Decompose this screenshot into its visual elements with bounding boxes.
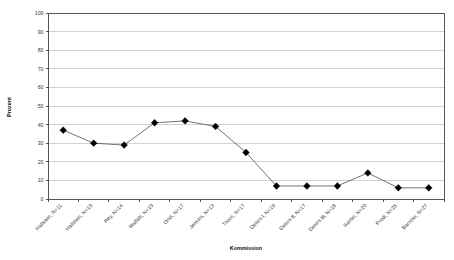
chart-container: 0102030405060708090100 Hallstein, N=11Ha… (0, 0, 454, 260)
y-tick-label: 0 (41, 196, 44, 202)
y-tick-label: 70 (38, 66, 44, 72)
gridlines (48, 32, 444, 181)
x-tick-label: Santer, N=20 (342, 202, 368, 228)
data-point-marker (151, 119, 158, 126)
x-tick-label: Hallstein, N=10 (64, 202, 93, 231)
x-tick-label: Jenkins, N=13 (188, 202, 216, 230)
data-point-marker (90, 140, 97, 147)
y-axis-title: Prozent (6, 97, 12, 117)
x-axis-tick-labels: Hallstein, N=11Hallstein, N=10Rey, N=14M… (34, 202, 429, 232)
data-point-marker (121, 142, 128, 149)
data-point-marker (334, 183, 341, 190)
line-chart: 0102030405060708090100 Hallstein, N=11Ha… (0, 0, 454, 260)
y-tick-label: 10 (38, 177, 44, 183)
y-tick-label: 100 (35, 10, 44, 16)
y-tick-label: 20 (38, 159, 44, 165)
x-tick-label: Delors I, N=19 (248, 202, 276, 230)
x-tick-label: Delors III, N=18 (307, 202, 337, 232)
x-tick-label: Prodi, N=25 (374, 202, 398, 226)
y-tick-label: 60 (38, 84, 44, 90)
y-tick-label: 50 (38, 103, 44, 109)
x-tick-label: Oriol, N=17 (162, 202, 185, 225)
y-tick-label: 30 (38, 140, 44, 146)
x-tick-label: Hallstein, N=11 (34, 202, 63, 231)
data-point-marker (425, 184, 432, 191)
x-tick-label: Thorn, N=17 (221, 202, 246, 227)
y-axis-ticks: 0102030405060708090100 (35, 10, 48, 202)
y-tick-label: 80 (38, 47, 44, 53)
y-tick-label: 40 (38, 122, 44, 128)
x-tick-label: Barroso, N=27 (400, 202, 428, 230)
data-point-marker (60, 127, 67, 134)
data-point-marker (395, 184, 402, 191)
data-point-marker (304, 183, 311, 190)
data-point-marker (182, 117, 189, 124)
x-tick-label: Rey, N=14 (102, 202, 123, 223)
y-tick-label: 90 (38, 29, 44, 35)
x-axis-title: Kommission (230, 245, 262, 251)
data-point-marker (364, 170, 371, 177)
x-tick-label: Delors II, N=17 (278, 202, 307, 231)
x-tick-label: Malfatti, N=10 (127, 202, 154, 229)
